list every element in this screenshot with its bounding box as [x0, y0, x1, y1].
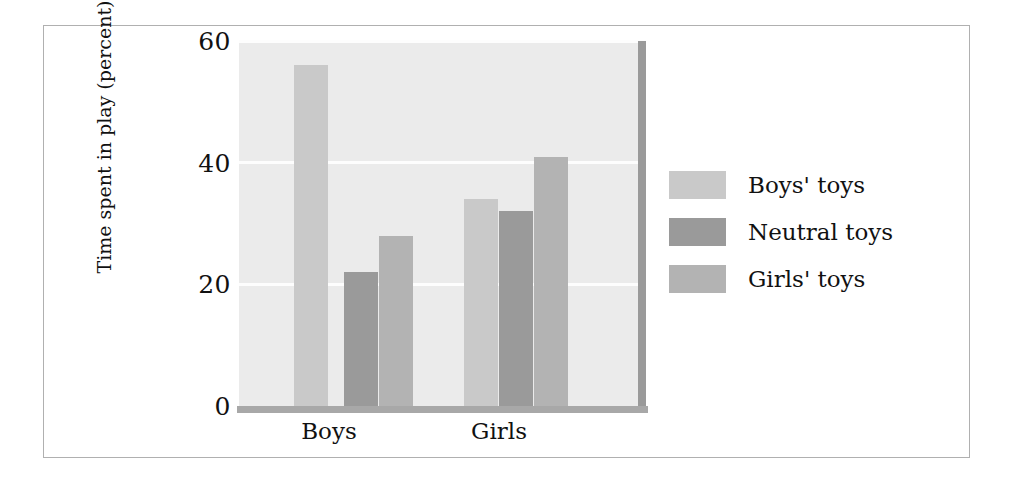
legend-swatch-girls-toys [669, 265, 726, 293]
legend-item-neutral-toys[interactable]: Neutral toys [669, 213, 949, 251]
legend-swatch-neutral-toys [669, 218, 726, 246]
legend-label-girls-toys: Girls' toys [748, 266, 865, 292]
y-tick-0: 0 [185, 394, 231, 419]
bar-girls-girlstoys[interactable] [534, 157, 568, 406]
bar-girls-neutral[interactable] [499, 211, 533, 406]
y-tick-20: 20 [185, 272, 231, 297]
legend-swatch-boys-toys [669, 171, 726, 199]
bar-boys-boystoys[interactable] [294, 65, 328, 406]
bar-boys-neutral[interactable] [344, 272, 378, 406]
clipped-bar-fragment [638, 41, 646, 406]
x-tick-boys: Boys [259, 418, 399, 444]
bar-group-boys [294, 41, 439, 406]
bar-chart: 0 20 40 60 Time spent in play (percent) [44, 26, 971, 459]
chart-legend: Boys' toys Neutral toys Girls' toys [669, 166, 949, 307]
legend-label-boys-toys: Boys' toys [748, 172, 865, 198]
legend-item-girls-toys[interactable]: Girls' toys [669, 260, 949, 298]
figure-frame: 0 20 40 60 Time spent in play (percent) [43, 25, 970, 458]
y-axis-title: Time spent in play (percent) [93, 0, 115, 287]
legend-label-neutral-toys: Neutral toys [748, 219, 893, 245]
y-tick-60: 60 [185, 29, 231, 54]
legend-item-boys-toys[interactable]: Boys' toys [669, 166, 949, 204]
x-tick-girls: Girls [429, 418, 569, 444]
plot-area [239, 41, 646, 406]
bar-boys-girlstoys[interactable] [379, 236, 413, 406]
y-axis-ticks: 0 20 40 60 [179, 41, 231, 406]
x-axis-baseline [237, 406, 648, 413]
y-tick-40: 40 [185, 150, 231, 175]
bar-girls-boystoys[interactable] [464, 199, 498, 406]
bar-group-girls [464, 41, 609, 406]
